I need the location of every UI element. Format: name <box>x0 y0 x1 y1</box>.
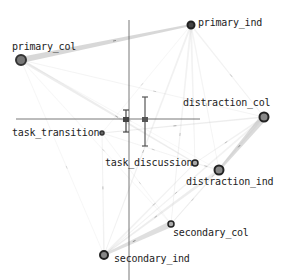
edge-direction-tick <box>141 83 143 85</box>
node-label-primary-col: primary_col <box>12 41 76 53</box>
edges-layer <box>20 24 266 256</box>
node-label-primary-ind: primary_ind <box>198 17 262 29</box>
marker-point <box>142 117 148 122</box>
error-marker-2 <box>142 97 148 146</box>
edge-direction-tick <box>153 91 156 92</box>
node-distraction-col <box>260 113 269 122</box>
edge-secondary_ind-to-task_discussion <box>103 163 195 256</box>
node-label-distraction-col: distraction_col <box>183 97 270 109</box>
edge-direction-tick <box>225 141 227 143</box>
edge-primary_col-to-secondary_ind <box>21 60 105 255</box>
nodes-layer <box>16 22 269 260</box>
edge-task_transition-to-secondary_col <box>102 133 172 225</box>
edge-primary_ind-to-secondary_ind <box>104 25 192 255</box>
edge-direction-tick <box>66 166 67 169</box>
node-label-task-discussion: task_discussion <box>105 157 192 169</box>
node-label-distraction-ind: distraction_ind <box>186 176 273 188</box>
marker-point <box>123 117 129 122</box>
node-distraction-ind <box>215 166 224 175</box>
node-secondary-ind <box>100 251 108 259</box>
edge-primary_col-to-distraction_ind <box>21 60 219 171</box>
node-primary-col <box>16 55 26 65</box>
edge-direction-tick <box>152 149 155 150</box>
edge-secondary_col-to-secondary_ind <box>104 221 173 256</box>
edge-direction-tick <box>113 40 116 41</box>
node-label-secondary-ind: secondary_ind <box>114 253 190 265</box>
node-primary-ind <box>188 22 195 29</box>
edge-direction-tick <box>139 182 141 184</box>
node-task-transition <box>100 131 104 135</box>
edge-direction-tick <box>143 150 144 153</box>
node-label-secondary-col: secondary_col <box>173 227 249 239</box>
edge-primary_col-to-secondary_col <box>21 60 172 225</box>
error-markers-layer <box>123 97 148 146</box>
edge-direction-tick <box>102 149 104 151</box>
error-marker-1 <box>123 110 129 132</box>
node-task-discussion <box>192 160 198 166</box>
node-label-task-transition: task_transition <box>12 127 99 139</box>
